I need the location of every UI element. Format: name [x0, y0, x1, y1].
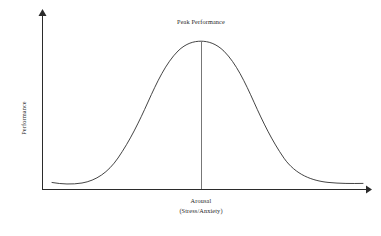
peak-performance-label: Peak Performance — [177, 17, 225, 26]
yerkes-dodson-chart: Peak Performance Arousal (Stress/Anxiety… — [0, 0, 381, 236]
x-axis-sublabel: (Stress/Anxiety) — [179, 206, 222, 215]
y-axis-label: Performance — [19, 101, 28, 135]
performance-curve — [52, 41, 363, 184]
x-axis-label: Arousal — [191, 196, 212, 205]
y-axis-arrowhead — [39, 9, 47, 16]
x-axis-arrowhead — [366, 186, 372, 194]
axes-group — [39, 9, 373, 194]
curve-group — [52, 41, 363, 189]
